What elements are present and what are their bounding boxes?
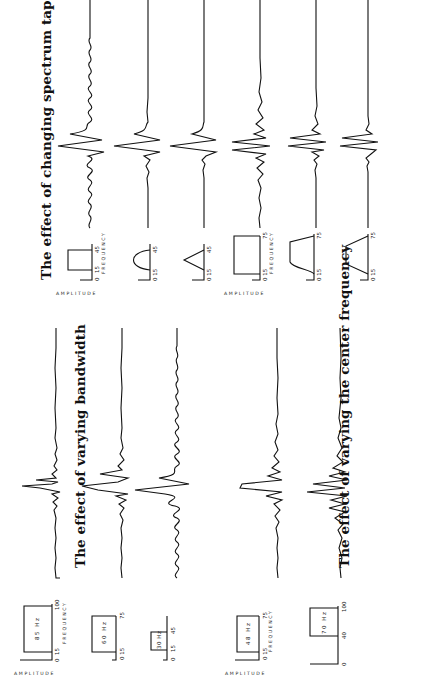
freq-tick-45: 45 (152, 246, 158, 253)
wavelet-trace-70hz (285, 328, 355, 578)
freq-tick-45: 45 (94, 246, 100, 253)
axis-label-frequency: FREQUENCY (268, 610, 273, 652)
spectrum-rounded-trapezoid-15-75: 0 15 75 (284, 232, 324, 280)
freq-tick-0-15: 0 15 (206, 269, 212, 281)
freq-tick-75: 75 (370, 232, 376, 239)
axis-label-amplitude: AMPLITUDE (225, 671, 266, 676)
spectrum-box-70hz: 70 Hz 0 40 100 (280, 598, 350, 664)
spectrum-box-15-75: 0 15 75 FREQUENCY AMPLITUDE (230, 232, 270, 280)
spectrum-triangle-15-45: 0 15 45 (172, 240, 208, 280)
freq-tick-75: 75 (262, 232, 268, 239)
freq-tick-75: 75 (119, 612, 125, 619)
freq-tick-75: 75 (316, 232, 322, 239)
spectrum-box-48hz: 48 Hz 0 15 75 FREQUENCY AMPLITUDE (235, 610, 275, 660)
spectrum-box-30hz: 30 Hz 0 15 45 (145, 610, 175, 660)
freq-tick-15: 15 (170, 645, 176, 652)
wavelet-waveform (125, 328, 195, 578)
wavelet-waveform (222, 328, 292, 578)
spectrum-trapezoid-15-75: 0 15 75 (338, 232, 378, 280)
freq-tick-0: 0 (170, 658, 176, 662)
spectrum-rect-icon (280, 598, 350, 664)
freq-tick-45: 45 (206, 246, 212, 253)
bandwidth-label: 85 Hz (34, 617, 40, 640)
wavelet-trace-30hz (125, 328, 195, 578)
axis-label-frequency: FREQUENCY (62, 602, 67, 644)
wavelet-waveform (285, 328, 355, 578)
spectrum-triangle-icon (172, 240, 208, 280)
freq-tick-40: 40 (341, 632, 347, 639)
wavelet-trace-trapezoid-75 (318, 0, 388, 228)
axis-label-amplitude: AMPLITUDE (56, 291, 97, 296)
wavelet-waveform (0, 328, 60, 578)
freq-tick-100: 100 (341, 602, 347, 613)
axis-label-frequency: FREQUENCY (269, 232, 274, 274)
wavelet-trace-48hz (222, 328, 292, 578)
freq-tick-15: 15 (54, 648, 60, 655)
bandwidth-label: 60 Hz (101, 621, 107, 644)
bandwidth-label: 48 Hz (245, 622, 251, 645)
spectrum-rect-icon (60, 240, 96, 280)
freq-tick-0: 0 (341, 663, 347, 667)
rotated-figure-page: The effect of varying bandwidth 85 Hz 0 … (0, 0, 424, 678)
spectrum-arch-icon (118, 240, 154, 280)
bandwidth-label: 30 Hz (156, 631, 162, 649)
spectrum-arch-15-45: 0 15 45 (118, 240, 154, 280)
axis-label-amplitude: AMPLITUDE (224, 291, 265, 296)
freq-tick-0: 0 (94, 278, 100, 282)
freq-tick-0-15: 0 15 (152, 269, 158, 281)
wavelet-trace-85hz (0, 328, 60, 578)
freq-tick-100: 100 (54, 600, 60, 611)
freq-tick-45: 45 (170, 627, 176, 634)
freq-tick-0-15: 0 15 (316, 269, 322, 281)
spectrum-box-85hz: 85 Hz 0 15 100 FREQUENCY AMPLITUDE (20, 600, 60, 660)
axis-label-frequency: FREQUENCY (101, 232, 106, 274)
wavelet-trace-60hz (70, 328, 130, 578)
spectrum-box-15-45: 0 15 45 FREQUENCY AMPLITUDE (60, 240, 96, 280)
freq-tick-0-15: 0 15 (370, 269, 376, 281)
bandwidth-label: 70 Hz (321, 611, 327, 634)
freq-tick-0-15: 0 15 (262, 269, 268, 281)
freq-tick-15: 15 (94, 266, 100, 273)
axis-label-amplitude: AMPLITUDE (14, 671, 55, 676)
wavelet-waveform (70, 328, 130, 578)
spectrum-box-60hz: 60 Hz 0 15 75 (90, 610, 124, 660)
wavelet-waveform (318, 0, 388, 228)
freq-tick-0: 0 (54, 659, 60, 663)
freq-tick-0-15: 0 15 (119, 648, 125, 660)
